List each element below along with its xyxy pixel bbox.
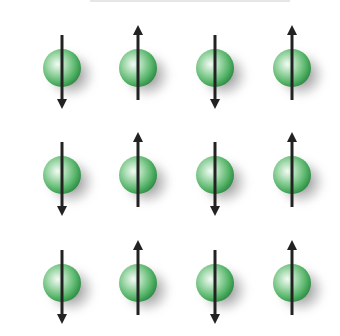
atom-spin-down	[43, 142, 96, 216]
arrow-down-icon	[210, 314, 220, 324]
arrow-up-icon	[287, 132, 297, 142]
atom-spin-down	[196, 142, 249, 216]
atom-spin-up	[273, 240, 326, 315]
atom-spin-down	[43, 35, 96, 109]
arrow-up-icon	[133, 132, 143, 142]
arrow-up-icon	[133, 25, 143, 35]
arrow-down-icon	[57, 99, 67, 109]
atom-spin-up	[119, 25, 172, 100]
arrow-down-icon	[210, 99, 220, 109]
arrow-up-icon	[133, 240, 143, 250]
spin-lattice	[0, 0, 340, 336]
atom-spin-up	[273, 132, 326, 207]
arrow-up-icon	[287, 25, 297, 35]
atom-spin-down	[196, 35, 249, 109]
atom-spin-up	[119, 240, 172, 315]
arrow-down-icon	[210, 206, 220, 216]
atom-spin-down	[196, 250, 249, 324]
arrow-down-icon	[57, 206, 67, 216]
atom-spin-up	[273, 25, 326, 100]
arrow-down-icon	[57, 314, 67, 324]
arrow-up-icon	[287, 240, 297, 250]
atom-spin-up	[119, 132, 172, 207]
atom-spin-down	[43, 250, 96, 324]
